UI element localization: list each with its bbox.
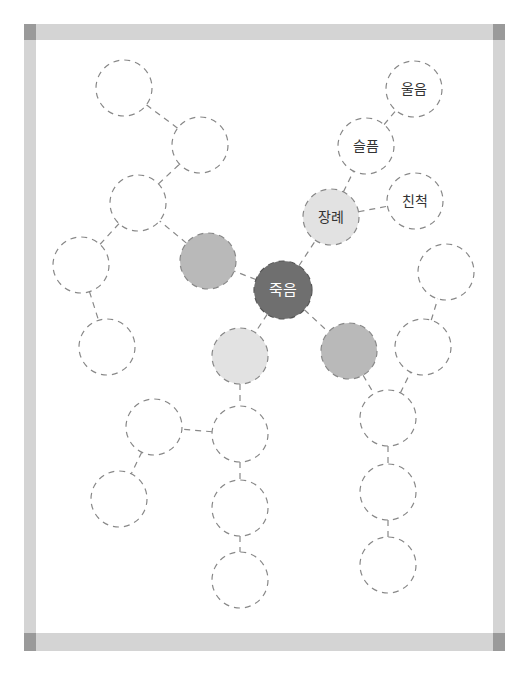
mind-map-node-center: 죽음 (254, 261, 312, 319)
connector-line (359, 206, 388, 212)
mind-map-node-b1 (212, 406, 268, 462)
node-circle (418, 244, 474, 300)
mind-map-node-l5 (79, 319, 135, 375)
connector-line (299, 240, 316, 265)
node-circle (91, 471, 147, 527)
mind-map-node-b5 (91, 471, 147, 527)
mind-map-node-b4 (126, 399, 182, 455)
mind-map-node-crying: 울음 (386, 61, 442, 117)
mind-map-node-l4 (53, 237, 109, 293)
mind-map-node-r1 (360, 390, 416, 446)
node-circle (110, 175, 166, 231)
node-label: 장례 (318, 209, 344, 225)
node-circle (212, 406, 268, 462)
node-circle (212, 552, 268, 608)
connector-line (158, 164, 179, 184)
mind-map-node-l3 (96, 60, 152, 116)
node-circle (172, 117, 228, 173)
node-circle (360, 390, 416, 446)
mind-map-node-relatives: 친척 (387, 173, 443, 229)
mind-map-node-bottom-light (212, 328, 268, 384)
mind-map-node-b3 (212, 552, 268, 608)
connector-line (234, 271, 256, 279)
connector-line (89, 292, 98, 321)
node-circle (360, 464, 416, 520)
connector-line (182, 429, 212, 431)
node-label: 친척 (402, 193, 428, 209)
mind-map-node-r4 (395, 319, 451, 375)
mind-map-node-l2 (172, 117, 228, 173)
mind-map-node-sadness: 슬픔 (338, 118, 394, 174)
node-circle (53, 237, 109, 293)
mind-map-nodes: 죽음장례슬픔울음친척 (53, 60, 474, 608)
node-circle (126, 399, 182, 455)
node-circle (180, 233, 236, 289)
mind-map-node-l1 (110, 175, 166, 231)
node-circle (212, 328, 268, 384)
connector-line (431, 299, 438, 320)
node-circle (79, 319, 135, 375)
mind-map-node-r3 (360, 537, 416, 593)
connector-line (255, 314, 267, 332)
mind-map-node-r5 (418, 244, 474, 300)
connector-line (343, 171, 353, 192)
mind-map-node-r2 (360, 464, 416, 520)
connector-line (160, 221, 187, 243)
connector-line (363, 375, 374, 394)
connector-line (384, 110, 396, 124)
node-circle (96, 60, 152, 116)
connector-line (400, 372, 410, 393)
connector-line (304, 310, 328, 332)
mind-map-node-right-grey (321, 323, 377, 379)
node-circle (360, 537, 416, 593)
connector-line (131, 452, 142, 474)
node-label: 울음 (401, 81, 427, 97)
node-circle (212, 480, 268, 536)
node-label: 죽음 (269, 281, 297, 299)
node-circle (321, 323, 377, 379)
mind-map-node-funeral: 장례 (303, 189, 359, 245)
mind-map: 죽음장례슬픔울음친척 (0, 0, 523, 674)
node-circle (395, 319, 451, 375)
connector-line (146, 105, 177, 128)
node-label: 슬픔 (353, 138, 379, 154)
connector-line (100, 224, 119, 245)
mind-map-node-left-grey (180, 233, 236, 289)
mind-map-node-b2 (212, 480, 268, 536)
